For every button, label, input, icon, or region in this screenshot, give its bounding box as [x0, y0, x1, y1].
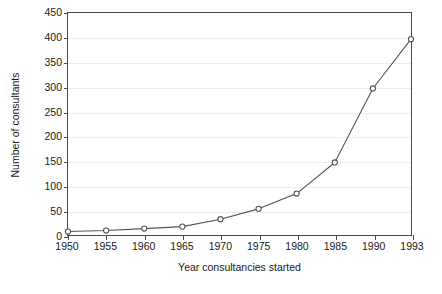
y-tick-label: 400 [44, 31, 62, 43]
data-point-marker [408, 37, 413, 42]
data-point-marker [256, 206, 261, 211]
series-line [68, 39, 411, 231]
x-axis-tick-labels: 1950195519601965197019751980198519901993 [67, 240, 412, 256]
y-tick-label: 50 [50, 205, 62, 217]
data-point-marker [370, 86, 375, 91]
x-axis-title: Year consultancies started [67, 261, 412, 273]
y-tick-label: 100 [44, 180, 62, 192]
data-point-marker [294, 191, 299, 196]
data-series [68, 13, 411, 235]
y-tick-label: 350 [44, 56, 62, 68]
data-point-marker [332, 160, 337, 165]
x-tick-label: 1985 [324, 240, 347, 252]
x-tick-label: 1960 [132, 240, 155, 252]
y-tick-label: 450 [44, 6, 62, 18]
data-point-marker [180, 224, 185, 229]
y-axis-title-label: Number of consultants [9, 72, 21, 177]
data-point-marker [142, 226, 147, 231]
y-tick-label: 300 [44, 81, 62, 93]
data-point-marker [65, 229, 70, 234]
y-tick-label: 250 [44, 106, 62, 118]
x-tick-label: 1950 [55, 240, 78, 252]
x-tick-label: 1975 [247, 240, 270, 252]
y-axis-title: Number of consultants [4, 0, 26, 250]
line-chart: Number of consultants 050100150200250300… [0, 0, 442, 294]
y-axis-tick-labels: 050100150200250300350400450 [26, 12, 62, 236]
x-tick-label: 1990 [362, 240, 385, 252]
y-tick-label: 200 [44, 130, 62, 142]
x-tick-label: 1993 [400, 240, 423, 252]
y-tick-label: 150 [44, 155, 62, 167]
data-point-marker [218, 217, 223, 222]
x-tick-label: 1955 [94, 240, 117, 252]
x-tick-label: 1980 [285, 240, 308, 252]
plot-area [67, 12, 412, 236]
x-tick-label: 1970 [209, 240, 232, 252]
data-point-marker [104, 228, 109, 233]
x-tick-label: 1965 [170, 240, 193, 252]
